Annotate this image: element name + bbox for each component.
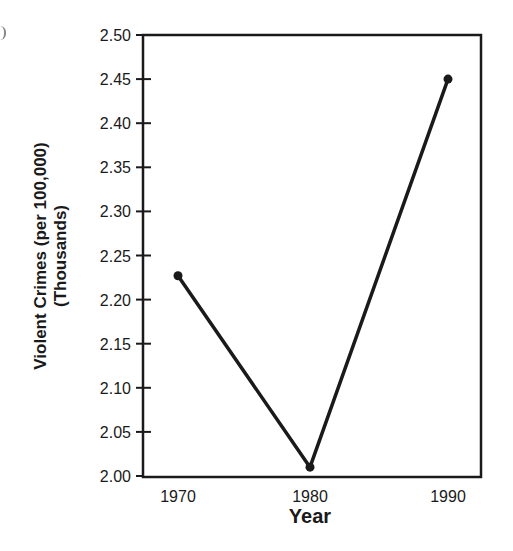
x-tick-label: 1990 [430, 488, 466, 505]
y-tick-label: 2.40 [100, 115, 131, 132]
y-tick-label: 2.30 [100, 203, 131, 220]
data-point [174, 271, 183, 280]
series-line [178, 79, 448, 467]
x-axis-title: Year [289, 505, 331, 527]
plot-frame [143, 35, 481, 477]
y-tick-label: 2.10 [100, 380, 131, 397]
y-tick-label: 2.50 [100, 27, 131, 44]
y-tick-label: 2.35 [100, 159, 131, 176]
y-tick-label: 2.25 [100, 248, 131, 265]
y-tick-label: 2.05 [100, 424, 131, 441]
y-tick-label: 2.45 [100, 71, 131, 88]
y-axis-title: Violent Crimes (per 100,000) [31, 142, 50, 369]
y-tick-label: 2.20 [100, 292, 131, 309]
data-points [174, 75, 453, 472]
data-point [444, 75, 453, 84]
y-axis-title-units: (Thousands) [51, 205, 70, 307]
x-axis: 197019801990 [160, 488, 466, 505]
line-chart: 2.002.052.102.152.202.252.302.352.402.45… [0, 0, 513, 551]
x-tick-label: 1980 [292, 488, 328, 505]
y-tick-label: 2.00 [100, 468, 131, 485]
x-tick-label: 1970 [160, 488, 196, 505]
data-point [306, 463, 315, 472]
y-tick-label: 2.15 [100, 336, 131, 353]
